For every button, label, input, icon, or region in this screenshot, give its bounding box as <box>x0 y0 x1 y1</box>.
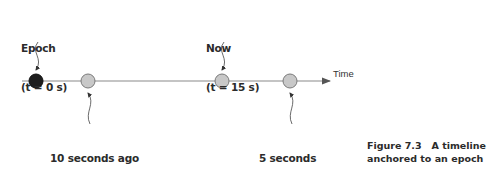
epoch-time: (t = 0 s) <box>21 81 67 94</box>
now-label: Now (t = 15 s) <box>206 16 259 107</box>
ten-seconds-ago-label: 10 seconds ago (t = 5 s) <box>50 126 139 179</box>
figure-caption: Figure 7.3 A timeline anchored to an epo… <box>367 139 486 165</box>
epoch-title: Epoch <box>21 42 67 55</box>
epoch-label: Epoch (t = 0 s) <box>21 16 67 107</box>
five-seconds-from-now-label: 5 seconds from now (t = 20 s) <box>259 126 316 179</box>
ten-seconds-ago-title: 10 seconds ago <box>50 152 139 165</box>
caption-line-1: Figure 7.3 A timeline <box>367 139 486 152</box>
caption-text-2: anchored to an epoch <box>367 152 486 165</box>
ten-seconds-ago-pointer-arrow <box>88 93 91 124</box>
five-seconds-from-now-title: 5 seconds <box>259 152 316 165</box>
caption-text-1: A timeline <box>432 140 487 151</box>
ten-seconds-ago-marker <box>81 74 95 88</box>
now-title: Now <box>206 42 259 55</box>
five-seconds-from-now-pointer-arrow <box>290 93 293 124</box>
now-time: (t = 15 s) <box>206 81 259 94</box>
figure-number: Figure 7.3 <box>367 140 422 151</box>
five-seconds-from-now-marker <box>283 74 297 88</box>
time-axis-label: Time <box>333 68 354 79</box>
